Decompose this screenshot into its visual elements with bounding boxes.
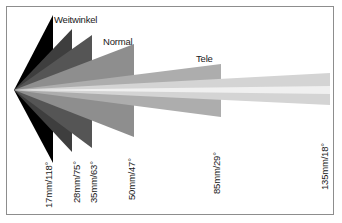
category-label-tele: Tele [196,53,213,64]
lens-angle-of-view-diagram: Weitwinkel Normal Tele 17mm/118° 28mm/75… [0,0,342,223]
lens-label-35mm: 35mm/63° [88,161,99,203]
lens-label-50mm: 50mm/47° [126,158,137,200]
category-label-normal: Normal [103,36,132,47]
lens-label-28mm: 28mm/75° [71,161,82,203]
lens-label-85mm: 85mm/29° [211,152,222,194]
lens-label-17mm: 17mm/118° [43,162,54,208]
category-label-weitwinkel: Weitwinkel [54,14,97,25]
lens-label-135mm: 135mm/18° [319,143,330,190]
